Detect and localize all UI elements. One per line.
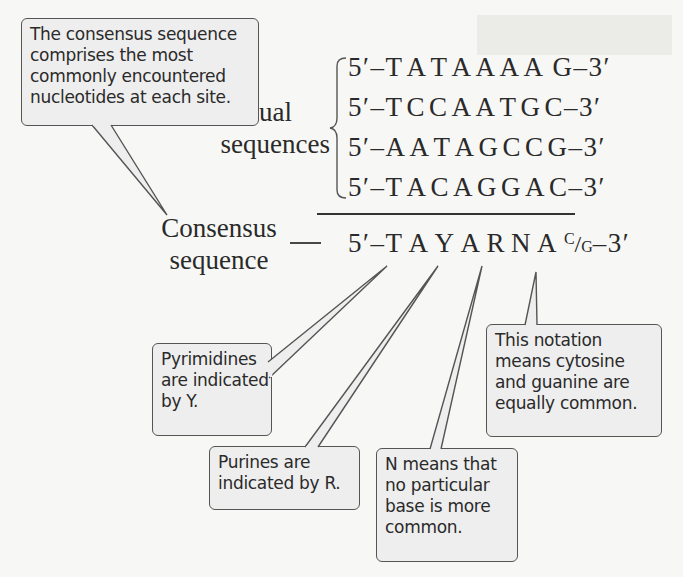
n-means-pointer <box>430 266 482 449</box>
base: A <box>454 132 475 163</box>
notation-pointer <box>525 272 537 325</box>
base: T <box>385 92 403 123</box>
n-means-callout: N means that no particular base is more … <box>376 448 518 562</box>
callout-line: by Y. <box>161 391 263 412</box>
callout-line: no particular <box>385 475 509 496</box>
base: C <box>406 92 426 123</box>
base: T <box>499 92 517 123</box>
base: T <box>385 172 403 203</box>
consensus-sequence-row: 5′–TAYARNAC/G–3′ <box>348 228 630 259</box>
base: A <box>451 52 472 83</box>
base: A <box>406 52 427 83</box>
callout-line: base is more <box>385 496 509 517</box>
base: A <box>499 52 520 83</box>
bleed-through-heading-bar <box>477 15 672 55</box>
callout-line: equally common. <box>495 393 653 414</box>
c-or-g-top: C <box>564 230 575 247</box>
callout-line: Purines are <box>218 452 351 473</box>
three-prime-label: –3′ <box>568 172 605 202</box>
callout-line: common. <box>385 517 509 538</box>
base: A <box>523 52 544 83</box>
base: G <box>552 52 573 83</box>
actual-sequence-row-4: 5′–TACAGGAC–3′ <box>348 172 606 203</box>
three-prime-label: –3′ <box>568 132 605 162</box>
three-prime-label: –3′ <box>573 52 610 82</box>
base: A <box>451 92 472 123</box>
base: T <box>385 52 403 83</box>
base: A <box>475 92 496 123</box>
base-T: T <box>385 228 403 259</box>
five-prime-label: 5′– <box>348 132 385 162</box>
callout-line: The consensus sequence <box>30 24 250 45</box>
five-prime-label: 5′– <box>348 92 385 122</box>
base-R: R <box>486 228 506 259</box>
base: A <box>525 172 546 203</box>
base: C <box>544 92 564 123</box>
five-prime-label: 5′– <box>348 52 385 82</box>
base: C <box>549 172 569 203</box>
notation-callout: This notation means cytosine and guanine… <box>486 324 662 437</box>
c-or-g-bottom: G <box>581 238 593 255</box>
base: A <box>475 52 496 83</box>
three-prime-label: –3′ <box>564 92 601 122</box>
callout-line: N means that <box>385 454 509 475</box>
consensus-sequence-label: Consensus sequence <box>150 212 288 276</box>
purines-callout: Purines are indicated by R. <box>209 446 360 510</box>
base: G <box>520 92 541 123</box>
callout-line: means cytosine <box>495 351 653 372</box>
actual-sequence-row-2: 5′–TCCAATGC–3′ <box>348 92 601 123</box>
purines-pointer <box>305 266 438 447</box>
actual-label-line2: sequences <box>198 128 330 160</box>
callout-line: Pyrimidines <box>161 349 263 370</box>
base-Y: Y <box>434 228 455 259</box>
callout-line: This notation <box>495 330 653 351</box>
pyrimidines-callout: Pyrimidines are indicated by Y. <box>152 343 272 436</box>
base-N: N <box>511 228 532 259</box>
callout-line: indicated by R. <box>218 473 351 494</box>
actual-sequences-brace <box>330 58 346 198</box>
base: G <box>477 172 498 203</box>
callout-line: nucleotides at each site. <box>30 87 250 108</box>
base: C <box>429 92 449 123</box>
base: C <box>502 132 522 163</box>
consensus-label-line1: Consensus <box>150 212 288 244</box>
base: A <box>385 132 406 163</box>
base: T <box>430 52 448 83</box>
base: G <box>547 132 568 163</box>
actual-sequence-row-1: 5′–TATAAAAG–3′ <box>348 52 611 83</box>
base: G <box>478 132 499 163</box>
callout-line: and guanine are <box>495 372 653 393</box>
base: T <box>433 132 451 163</box>
consensus-definition-callout: The consensus sequence comprises the mos… <box>21 18 259 126</box>
top-callout-pointer <box>92 125 167 215</box>
three-prime-label: –3′ <box>593 228 630 258</box>
consensus-label-line2: sequence <box>150 244 288 276</box>
five-prime-label: 5′– <box>348 228 385 258</box>
actual-sequence-row-3: 5′–AATAGCCG–3′ <box>348 132 606 163</box>
callout-line: comprises the most <box>30 45 250 66</box>
base: A <box>453 172 474 203</box>
base-A: A <box>408 228 429 259</box>
base-A: A <box>460 228 481 259</box>
callout-line: commonly encountered <box>30 66 250 87</box>
base-A: A <box>537 228 558 259</box>
base: G <box>501 172 522 203</box>
base: C <box>525 132 545 163</box>
base: A <box>409 132 430 163</box>
five-prime-label: 5′– <box>348 172 385 202</box>
c-or-g-notation: C/G <box>564 238 593 255</box>
base: C <box>430 172 450 203</box>
callout-line: are indicated <box>161 370 263 391</box>
base: A <box>406 172 427 203</box>
pyrimidines-pointer <box>268 266 387 378</box>
